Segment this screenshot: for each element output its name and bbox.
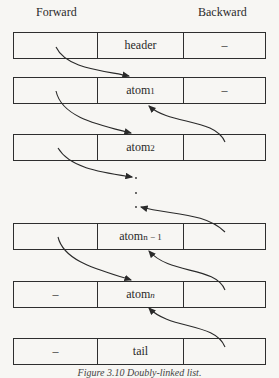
backward-arrow-atomn-to-atomn1: [149, 251, 225, 290]
forward-arrow-atom2-to-ellipsis: [58, 148, 132, 177]
forward-arrow-atom1-to-atom2: [56, 91, 131, 133]
backward-arrow-tail-to-atomn: [149, 308, 225, 347]
figure-caption: Figure 3.10 Doubly-linked list.: [0, 367, 279, 378]
backward-arrow-atomn1-to-ellipsis: [141, 207, 225, 232]
backward-arrow-atom2-to-atom1: [149, 106, 225, 142]
forward-arrow-atomn1-to-atomn: [58, 237, 131, 280]
ellipsis-dots: [135, 177, 137, 208]
forward-arrow-header-to-atom1: [56, 47, 129, 76]
